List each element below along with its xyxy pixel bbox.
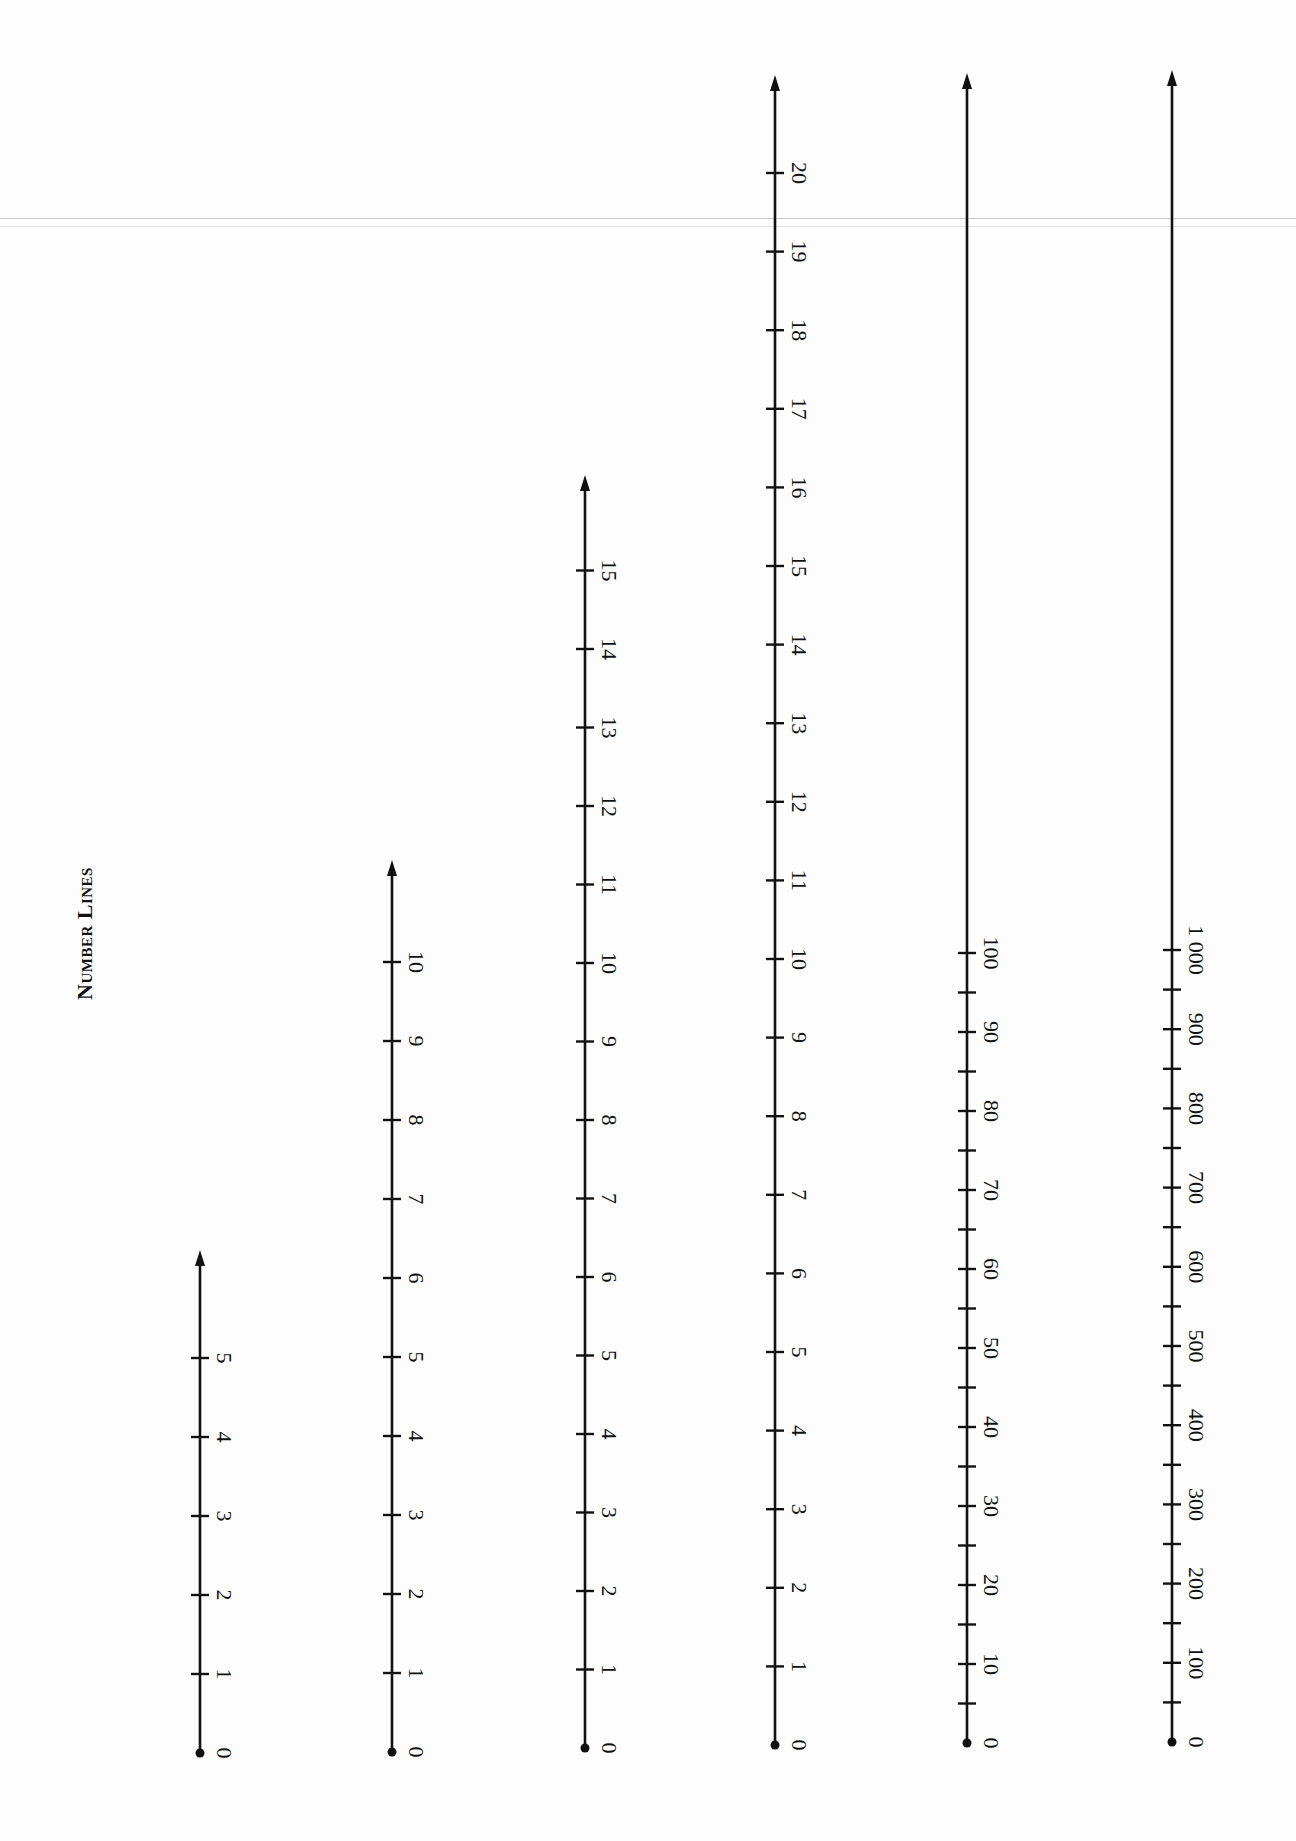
- number-line-1000: 01002003004005006007008009001 000: [1163, 70, 1209, 1748]
- number-line-20: 01234567891011121314151617181920: [766, 75, 812, 1751]
- tick-label: 16: [787, 476, 812, 498]
- tick-label: 2: [404, 1589, 429, 1600]
- origin-dot-icon: [388, 1748, 397, 1757]
- tick-label: 5: [787, 1347, 812, 1358]
- tick-label: 1 000: [1184, 925, 1209, 975]
- tick-label: 0: [212, 1748, 237, 1759]
- tick-label: 10: [404, 951, 429, 973]
- arrow-up-icon: [580, 475, 590, 491]
- tick-label: 1: [787, 1661, 812, 1672]
- tick-label: 7: [597, 1193, 622, 1204]
- tick-label: 2: [212, 1590, 237, 1601]
- tick-label: 1: [212, 1669, 237, 1680]
- tick-label: 70: [979, 1179, 1004, 1201]
- tick-label: 7: [404, 1194, 429, 1205]
- tick-label: 1: [597, 1664, 622, 1675]
- tick-label: 500: [1184, 1330, 1209, 1363]
- origin-dot-icon: [771, 1741, 780, 1750]
- tick-label: 0: [787, 1740, 812, 1751]
- tick-label: 400: [1184, 1409, 1209, 1442]
- arrow-up-icon: [195, 1250, 205, 1266]
- tick-label: 5: [212, 1353, 237, 1364]
- tick-label: 3: [787, 1504, 812, 1515]
- tick-label: 20: [979, 1574, 1004, 1596]
- arrow-up-icon: [387, 860, 397, 876]
- arrow-up-icon: [770, 75, 780, 91]
- tick-label: 60: [979, 1258, 1004, 1280]
- tick-label: 15: [597, 560, 622, 582]
- tick-label: 600: [1184, 1250, 1209, 1283]
- tick-label: 100: [979, 937, 1004, 970]
- tick-label: 200: [1184, 1567, 1209, 1600]
- tick-label: 3: [212, 1511, 237, 1522]
- tick-label: 12: [597, 795, 622, 817]
- tick-label: 11: [787, 870, 812, 891]
- tick-label: 0: [1184, 1737, 1209, 1748]
- tick-label: 10: [787, 948, 812, 970]
- tick-label: 40: [979, 1416, 1004, 1438]
- tick-label: 800: [1184, 1092, 1209, 1125]
- tick-label: 9: [404, 1036, 429, 1047]
- tick-label: 30: [979, 1495, 1004, 1517]
- tick-label: 0: [597, 1743, 622, 1754]
- tick-label: 3: [597, 1507, 622, 1518]
- tick-label: 300: [1184, 1488, 1209, 1521]
- origin-dot-icon: [581, 1744, 590, 1753]
- tick-label: 90: [979, 1021, 1004, 1043]
- origin-dot-icon: [963, 1739, 972, 1748]
- tick-label: 9: [787, 1032, 812, 1043]
- tick-label: 8: [597, 1115, 622, 1126]
- tick-label: 2: [597, 1586, 622, 1597]
- tick-label: 19: [787, 241, 812, 263]
- tick-label: 13: [787, 712, 812, 734]
- tick-label: 12: [787, 791, 812, 813]
- number-line-15: 0123456789101112131415: [576, 475, 622, 1754]
- tick-label: 1: [404, 1668, 429, 1679]
- tick-label: 6: [597, 1272, 622, 1283]
- arrow-up-icon: [1167, 70, 1177, 86]
- number-line-5: 012345: [191, 1250, 237, 1759]
- tick-label: 8: [404, 1115, 429, 1126]
- tick-label: 6: [787, 1268, 812, 1279]
- tick-label: 10: [979, 1653, 1004, 1675]
- number-lines-figure: 0123450123456789100123456789101112131415…: [0, 0, 1296, 1841]
- number-line-10: 012345678910: [383, 860, 429, 1758]
- origin-dot-icon: [196, 1749, 205, 1758]
- tick-label: 8: [787, 1111, 812, 1122]
- tick-label: 6: [404, 1273, 429, 1284]
- tick-label: 4: [597, 1429, 622, 1440]
- tick-label: 4: [404, 1431, 429, 1442]
- arrow-up-icon: [962, 73, 972, 89]
- tick-label: 14: [597, 638, 622, 660]
- tick-label: 17: [787, 398, 812, 420]
- tick-label: 100: [1184, 1646, 1209, 1679]
- tick-label: 900: [1184, 1013, 1209, 1046]
- tick-label: 0: [404, 1747, 429, 1758]
- tick-label: 20: [787, 162, 812, 184]
- tick-label: 14: [787, 634, 812, 656]
- tick-label: 10: [597, 952, 622, 974]
- tick-label: 18: [787, 319, 812, 341]
- tick-label: 700: [1184, 1171, 1209, 1204]
- tick-label: 3: [404, 1510, 429, 1521]
- tick-label: 50: [979, 1337, 1004, 1359]
- tick-label: 7: [787, 1189, 812, 1200]
- tick-label: 15: [787, 555, 812, 577]
- tick-label: 4: [212, 1432, 237, 1443]
- tick-label: 0: [979, 1738, 1004, 1749]
- origin-dot-icon: [1168, 1738, 1177, 1747]
- tick-label: 9: [597, 1036, 622, 1047]
- tick-label: 5: [404, 1352, 429, 1363]
- tick-label: 80: [979, 1100, 1004, 1122]
- tick-label: 5: [597, 1350, 622, 1361]
- tick-label: 4: [787, 1425, 812, 1436]
- number-line-100: 0102030405060708090100: [958, 73, 1004, 1749]
- tick-label: 2: [787, 1582, 812, 1593]
- tick-label: 13: [597, 717, 622, 739]
- tick-label: 11: [597, 874, 622, 895]
